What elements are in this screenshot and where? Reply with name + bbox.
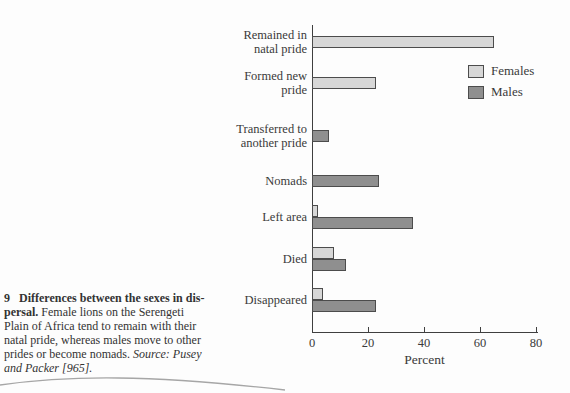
caption-line: persal. Female lions on the Serengeti <box>4 305 254 319</box>
x-tick-label-40: 40 <box>418 336 431 351</box>
bar-females-disappeared <box>312 288 323 300</box>
bar-males-disappeared <box>312 300 376 312</box>
x-tick-40 <box>424 327 425 332</box>
bar-females-formed-new-pride <box>312 77 376 89</box>
figure-caption: 9 Differences between the sexes in dis-p… <box>4 291 254 375</box>
caption-line: prides or become nomads. Source: Pusey <box>4 347 254 361</box>
x-tick-label-80: 80 <box>530 336 543 351</box>
females-swatch-icon <box>468 65 484 78</box>
x-tick-20 <box>368 327 369 332</box>
bar-males-transferred-to-another-pride <box>312 130 329 142</box>
category-label-formed-new-pride: Formed new pride <box>187 69 307 97</box>
x-tick-label-0: 0 <box>309 336 315 351</box>
bar-males-nomads <box>312 175 379 187</box>
caption-line: 9 Differences between the sexes in dis- <box>4 291 254 305</box>
males-swatch-icon <box>468 86 484 99</box>
x-tick-60 <box>480 327 481 332</box>
x-axis-title: Percent <box>382 352 467 368</box>
page-curl-line <box>0 369 300 393</box>
bar-males-died <box>312 259 346 271</box>
x-tick-label-60: 60 <box>474 336 487 351</box>
caption-line: Plain of Africa tend to remain with thei… <box>4 319 254 333</box>
bar-males-left-area <box>312 217 413 229</box>
category-label-transferred-to-another-pride: Transferred to another pride <box>187 122 307 150</box>
x-tick-label-20: 20 <box>362 336 375 351</box>
legend-label-females: Females <box>491 63 534 79</box>
category-label-left-area: Left area <box>187 210 307 224</box>
category-label-nomads: Nomads <box>187 174 307 188</box>
legend: Females Males <box>468 63 534 105</box>
legend-item-females: Females <box>468 63 534 79</box>
bar-females-died <box>312 247 334 259</box>
category-label-remained-in-natal-pride: Remained in natal pride <box>187 28 307 56</box>
caption-line: natal pride, whereas males move to other <box>4 333 254 347</box>
x-tick-80 <box>536 327 537 332</box>
x-axis <box>312 332 538 333</box>
bar-females-remained-in-natal-pride <box>312 36 494 48</box>
figure-lion-dispersal: Remained in natal prideFormed new prideT… <box>0 0 570 393</box>
legend-item-males: Males <box>468 84 534 100</box>
legend-label-males: Males <box>491 84 523 100</box>
bar-females-left-area <box>312 205 318 217</box>
category-label-died: Died <box>187 252 307 266</box>
